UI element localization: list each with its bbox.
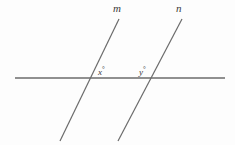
geometry-canvas: [0, 0, 235, 145]
angle-label-x: x°: [98, 66, 105, 77]
line-n: [118, 19, 182, 141]
angle-label-y: y°: [139, 66, 146, 77]
degree-symbol-x: °: [102, 65, 105, 73]
line-m: [60, 19, 119, 141]
geometry-figure: m n x° y°: [0, 0, 235, 145]
line-label-m: m: [113, 3, 121, 14]
line-label-n: n: [176, 3, 182, 14]
degree-symbol-y: °: [143, 65, 146, 73]
